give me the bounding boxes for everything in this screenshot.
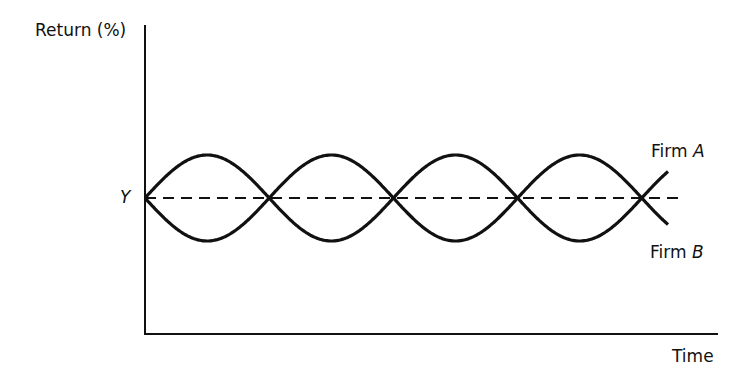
- chart-canvas: [0, 0, 756, 386]
